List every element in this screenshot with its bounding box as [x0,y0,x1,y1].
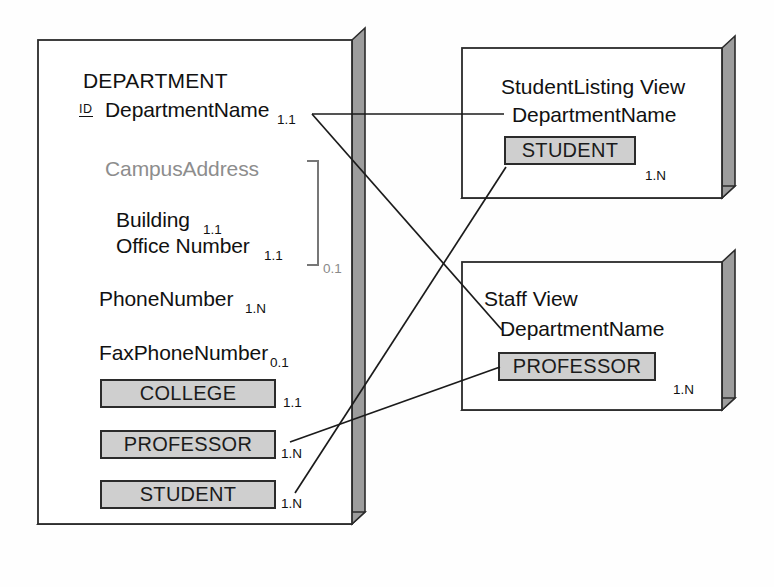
cardinality-student: 1.N [281,497,302,511]
entity-label-student: STUDENT [140,483,237,506]
cardinality-professor: 1.N [281,447,302,461]
student-listing-entity-box-student[interactable]: STUDENT [504,136,636,165]
entity-label-college: COLLEGE [140,382,237,405]
department-title: DEPARTMENT [83,70,228,91]
staff-view-entity-label-professor: PROFESSOR [513,355,641,378]
student-listing-cardinality-student: 1.N [645,169,666,183]
staff-view-attribute-departmentname: DepartmentName [500,318,664,339]
attribute-phonenumber: PhoneNumber [99,288,233,309]
cardinality-campusaddress: 0.1 [323,262,342,276]
entity-box-college[interactable]: COLLEGE [100,379,276,408]
cardinality-faxphonenumber: 0.1 [270,356,289,370]
department-id-tag: ID [79,103,93,117]
cardinality-college: 1.1 [283,396,302,410]
attribute-office-number: Office Number [116,235,250,256]
student-listing-box-right-face [722,36,735,198]
student-listing-view-title: StudentListing View [501,76,685,97]
group-campusaddress: CampusAddress [105,158,259,179]
student-listing-attribute-departmentname: DepartmentName [512,104,676,125]
campusaddress-group-bracket [307,160,319,266]
cardinality-office-number: 1.1 [264,249,283,263]
cardinality-phonenumber: 1.N [245,302,266,316]
staff-view-entity-box-professor[interactable]: PROFESSOR [498,352,656,381]
entity-label-professor: PROFESSOR [124,433,252,456]
entity-box-professor[interactable]: PROFESSOR [100,430,276,459]
diagram-canvas: DEPARTMENT ID DepartmentName 1.1 CampusA… [0,0,774,587]
attribute-building: Building [116,209,190,230]
cardinality-departmentname: 1.1 [277,113,296,127]
attribute-faxphonenumber: FaxPhoneNumber [99,342,268,363]
entity-box-student[interactable]: STUDENT [100,480,276,509]
staff-view-cardinality-professor: 1.N [673,383,694,397]
student-listing-entity-label-student: STUDENT [522,139,619,162]
staff-view-title: Staff View [484,288,578,309]
department-box-right-face [352,28,365,524]
staff-view-box-right-face [722,250,735,410]
attribute-departmentname: DepartmentName [105,99,269,120]
